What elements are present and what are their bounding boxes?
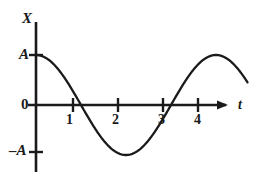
- plot-canvas: [0, 0, 264, 181]
- x-tick-label-4: 4: [194, 113, 201, 127]
- y-tick-label-minus-a: –A: [9, 143, 27, 158]
- origin-label: 0: [21, 97, 29, 112]
- x-axis-arrowhead: [217, 101, 228, 110]
- x-tick-label-1: 1: [66, 113, 73, 127]
- y-axis-label: X: [22, 11, 32, 26]
- x-tick-label-2: 2: [112, 113, 119, 127]
- cosine-waveform-figure: X t A 0 –A 1 2 3 4: [0, 0, 264, 181]
- x-axis-label: t: [238, 98, 242, 112]
- y-tick-label-a: A: [19, 47, 29, 62]
- x-tick-label-3: 3: [158, 113, 165, 127]
